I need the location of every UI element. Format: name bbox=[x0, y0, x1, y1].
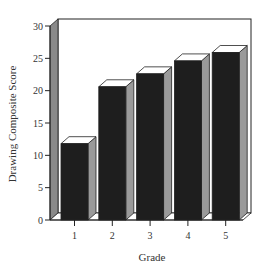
x-tick-label: 2 bbox=[110, 230, 115, 241]
x-axis: 12345 bbox=[50, 220, 243, 241]
y-tick-label: 20 bbox=[33, 85, 43, 96]
bar-side-face bbox=[126, 80, 134, 220]
y-tick-label: 10 bbox=[33, 150, 43, 161]
x-tick-label: 5 bbox=[223, 230, 228, 241]
x-tick-label: 3 bbox=[148, 230, 153, 241]
bar-front-face bbox=[212, 53, 239, 220]
y-tick-label: 0 bbox=[38, 215, 43, 226]
bar-3 bbox=[137, 67, 172, 220]
x-axis-title: Grade bbox=[139, 251, 166, 263]
bar-front-face bbox=[137, 74, 164, 220]
bar-front-face bbox=[174, 61, 201, 220]
y-axis-title: Drawing Composite Score bbox=[6, 66, 18, 183]
bar-side-face bbox=[239, 46, 247, 220]
bar-chart: 051015202530 12345 Drawing Composite Sco… bbox=[0, 0, 267, 274]
y-tick-label: 5 bbox=[38, 182, 43, 193]
y-tick-label: 25 bbox=[33, 53, 43, 64]
bar-front-face bbox=[99, 87, 126, 220]
side-wall bbox=[50, 19, 58, 220]
x-tick-label: 4 bbox=[185, 230, 190, 241]
bar-2 bbox=[99, 80, 134, 220]
bar-side-face bbox=[88, 137, 96, 220]
bar-side-face bbox=[201, 54, 209, 220]
x-tick-label: 1 bbox=[72, 230, 77, 241]
y-tick-label: 15 bbox=[33, 118, 43, 129]
bar-side-face bbox=[164, 67, 172, 220]
bar-front-face bbox=[61, 144, 88, 220]
y-axis: 051015202530 bbox=[33, 21, 50, 226]
bar-4 bbox=[174, 54, 209, 220]
bar-5 bbox=[212, 46, 247, 220]
bar-1 bbox=[61, 137, 96, 220]
y-tick-label: 30 bbox=[33, 21, 43, 32]
